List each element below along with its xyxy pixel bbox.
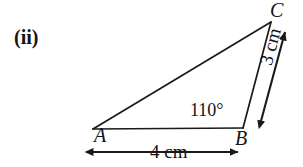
vertex-label-c: C [270, 0, 283, 20]
vertex-label-b: B [235, 128, 247, 148]
part-label: (ii) [14, 27, 38, 47]
figure-canvas: (ii) A B C 110° 4 cm 3 cm [0, 0, 303, 167]
angle-label-110: 110° [190, 101, 224, 119]
triangle-outline [93, 22, 271, 129]
side-length-label-ab: 4 cm [150, 142, 187, 161]
side-AB [93, 128, 243, 129]
vertex-label-a: A [94, 125, 106, 145]
side-AC [93, 22, 271, 129]
